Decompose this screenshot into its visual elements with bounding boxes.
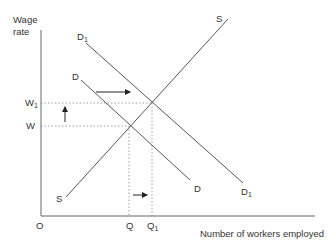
demand-curve-D — [81, 80, 190, 180]
y-tick-W1: W1 — [25, 97, 38, 109]
y-axis-label-line1: Wage — [13, 14, 37, 25]
supply-curve-S — [66, 19, 228, 197]
label-S-top: S — [216, 13, 222, 24]
label-D1-bottom: D1 — [241, 186, 252, 198]
x-tick-Q: Q — [126, 220, 133, 231]
label-S-bottom: S — [56, 193, 62, 204]
y-axis-label-line2: rate — [13, 26, 29, 37]
y-tick-W: W — [26, 120, 35, 131]
labour-market-chart: Wage rate W1 W O Q Q1 Number of workers … — [0, 0, 334, 248]
demand-curve-D1 — [86, 43, 243, 183]
label-D1-top: D1 — [77, 31, 88, 43]
x-tick-Q1: Q1 — [147, 220, 158, 232]
x-axis-label: Number of workers employed — [200, 228, 324, 239]
origin-label: O — [36, 220, 43, 231]
label-D-top: D — [72, 71, 79, 82]
label-D-bottom: D — [194, 183, 201, 194]
